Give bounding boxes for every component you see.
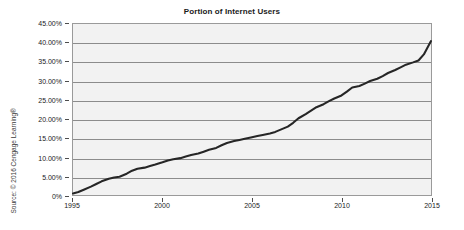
y-tick-mark — [65, 138, 69, 139]
y-tick-mark — [65, 23, 69, 24]
x-tick-label: 2010 — [334, 202, 350, 209]
x-tick-mark — [342, 198, 343, 202]
x-tick-label: 2000 — [154, 202, 170, 209]
y-tick-label: 10.00% — [38, 154, 62, 161]
y-tick-mark — [65, 177, 69, 178]
x-tick-mark — [252, 198, 253, 202]
chart-figure: Portion of Internet Users 0%5.00%10.00%1… — [0, 0, 464, 230]
source-note: Source: © 2016 Cengage Learning® — [10, 94, 17, 214]
y-tick-mark — [65, 81, 69, 82]
y-tick-mark — [65, 100, 69, 101]
data-series-svg — [73, 24, 431, 195]
x-tick-mark — [72, 198, 73, 202]
x-tick-label: 2015 — [424, 202, 440, 209]
y-tick-mark — [65, 158, 69, 159]
x-tick-label: 2005 — [244, 202, 260, 209]
y-tick-mark — [65, 196, 69, 197]
y-tick-label: 30.00% — [38, 77, 62, 84]
y-tick-label: 20.00% — [38, 116, 62, 123]
x-tick-mark — [432, 198, 433, 202]
y-tick-label: 35.00% — [38, 58, 62, 65]
y-tick-mark — [65, 119, 69, 120]
y-tick-label: 15.00% — [38, 135, 62, 142]
y-tick-mark — [65, 61, 69, 62]
series-line-internet-users — [73, 41, 431, 193]
x-tick-label: 1995 — [64, 202, 80, 209]
plot-area — [72, 23, 432, 196]
y-tick-label: 40.00% — [38, 39, 62, 46]
y-tick-label: 25.00% — [38, 96, 62, 103]
x-tick-mark — [162, 198, 163, 202]
y-tick-mark — [65, 42, 69, 43]
y-tick-label: 45.00% — [38, 20, 62, 27]
y-tick-label: 5.00% — [42, 173, 62, 180]
x-axis: 19952000200520102015 — [0, 198, 464, 218]
